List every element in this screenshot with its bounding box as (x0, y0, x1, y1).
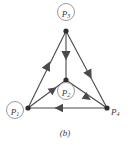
node-label-p2-sub: 2 (67, 92, 70, 98)
node-label-p4-base: P (111, 107, 117, 117)
arrowhead-p3-p4 (83, 68, 95, 80)
figure-container: P3 P2 P1 P4 (b) (0, 0, 130, 150)
node-label-p1-sub: 1 (16, 111, 19, 117)
vertex-p3[interactable] (63, 28, 68, 33)
node-label-p4: P4 (111, 102, 120, 118)
node-label-p3: P3 (57, 3, 75, 21)
arrowhead-p4-p1 (54, 104, 63, 113)
vertex-p4[interactable] (104, 105, 109, 110)
figure-caption: (b) (0, 128, 130, 138)
node-label-p4-sub: 4 (117, 111, 120, 117)
arrowhead-p3-p2 (61, 51, 70, 60)
arrowhead-p1-p3 (42, 60, 54, 72)
node-label-p1: P1 (6, 101, 24, 119)
node-label-p3-sub: 3 (67, 13, 70, 19)
node-label-p2: P2 (57, 82, 75, 100)
vertex-p1[interactable] (25, 105, 30, 110)
